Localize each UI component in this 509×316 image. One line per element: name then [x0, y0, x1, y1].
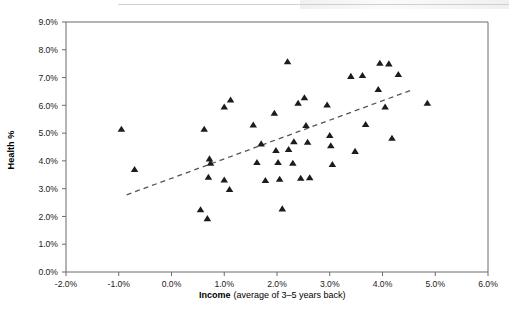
data-point-marker — [329, 161, 337, 167]
data-point-marker — [304, 139, 312, 145]
data-point-marker — [424, 100, 432, 106]
x-axis-title-emphasis: Income — [199, 290, 231, 300]
data-point-marker — [326, 132, 334, 138]
data-point-marker — [226, 186, 234, 192]
data-point-marker — [301, 94, 309, 100]
x-tick-label: 0.0% — [162, 279, 182, 289]
plot-area-frame — [66, 22, 488, 272]
data-point-marker — [302, 122, 310, 128]
data-point-marker — [359, 72, 367, 78]
data-point-marker — [284, 58, 292, 64]
x-tick-label: 6.0% — [478, 279, 498, 289]
data-point-marker — [376, 60, 384, 66]
y-tick-label: 8.0% — [38, 45, 58, 55]
x-tick-label: 4.0% — [373, 279, 393, 289]
data-point-marker — [351, 148, 359, 154]
y-tick-label: 7.0% — [38, 73, 58, 83]
x-tick-label: -2.0% — [55, 279, 78, 289]
x-axis-title-detail: (average of 3–5 years back) — [234, 290, 346, 300]
data-point-marker — [327, 142, 335, 148]
x-tick-label: 2.0% — [267, 279, 287, 289]
y-tick-label: 3.0% — [38, 184, 58, 194]
y-tick-label: 2.0% — [38, 212, 58, 222]
trendline — [127, 90, 412, 195]
data-point-marker — [220, 176, 228, 182]
x-tick-label: 3.0% — [320, 279, 340, 289]
data-point-marker — [276, 176, 284, 182]
data-point-marker — [200, 126, 208, 132]
x-tick-label: 1.0% — [214, 279, 234, 289]
x-tick-label: 5.0% — [425, 279, 445, 289]
y-tick-label: 1.0% — [38, 239, 58, 249]
y-tick-label: 9.0% — [38, 17, 58, 27]
data-point-marker — [347, 73, 355, 79]
y-axis-title: Health % — [6, 131, 16, 170]
data-point-marker — [204, 215, 212, 221]
y-tick-label: 0.0% — [38, 267, 58, 277]
data-point-marker — [206, 155, 214, 161]
data-point-marker — [388, 135, 396, 141]
data-points — [118, 58, 431, 221]
scan-artifact-rule — [118, 4, 509, 5]
data-point-marker — [253, 159, 261, 165]
data-point-marker — [362, 121, 370, 127]
x-axis-ticks: -2.0%-1.0%0.0%1.0%2.0%3.0%4.0%5.0%6.0% — [55, 272, 498, 289]
data-point-marker — [227, 96, 235, 102]
data-point-marker — [375, 86, 383, 92]
data-point-marker — [220, 103, 228, 109]
data-point-marker — [297, 175, 305, 181]
x-tick-label: -1.0% — [108, 279, 131, 289]
data-point-marker — [285, 146, 293, 152]
data-point-marker — [274, 159, 282, 165]
data-point-marker — [279, 205, 287, 211]
chart-canvas: 0.0%1.0%2.0%3.0%4.0%5.0%6.0%7.0%8.0%9.0%… — [0, 0, 509, 316]
data-point-marker — [131, 166, 139, 172]
data-point-marker — [381, 103, 389, 109]
data-point-marker — [197, 206, 205, 212]
y-tick-label: 4.0% — [38, 156, 58, 166]
data-point-marker — [249, 121, 257, 127]
y-axis-ticks: 0.0%1.0%2.0%3.0%4.0%5.0%6.0%7.0%8.0%9.0% — [38, 17, 66, 277]
data-point-marker — [205, 174, 213, 180]
data-point-marker — [290, 138, 298, 144]
data-point-marker — [385, 60, 393, 66]
y-tick-label: 5.0% — [38, 128, 58, 138]
data-point-marker — [271, 110, 279, 116]
data-point-marker — [257, 140, 265, 146]
data-point-marker — [323, 101, 331, 107]
data-point-marker — [294, 100, 302, 106]
data-point-marker — [118, 126, 126, 132]
data-point-marker — [272, 147, 280, 153]
data-point-marker — [262, 177, 270, 183]
data-point-marker — [289, 160, 297, 166]
scatter-chart-figure: 0.0%1.0%2.0%3.0%4.0%5.0%6.0%7.0%8.0%9.0%… — [0, 0, 509, 316]
data-point-marker — [306, 174, 314, 180]
y-tick-label: 6.0% — [38, 101, 58, 111]
data-point-marker — [395, 71, 403, 77]
